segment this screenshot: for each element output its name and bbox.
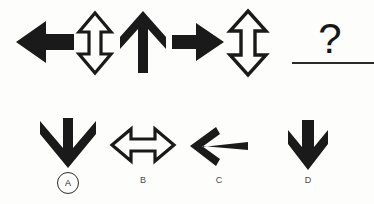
option-b-arrow-left-right-icon[interactable] (112, 128, 174, 162)
option-a-label[interactable]: A (57, 172, 79, 194)
sequence-item-4-arrow-right-icon (172, 22, 224, 62)
sequence-item-2-arrow-up-down-icon (78, 13, 112, 73)
sequence-item-3-arrow-up-icon (120, 11, 166, 73)
option-d-arrow-down-icon[interactable] (288, 120, 328, 170)
option-b-label[interactable]: B (130, 176, 156, 185)
sequence-item-1-arrow-left-icon (16, 20, 74, 64)
option-d-label[interactable]: D (295, 176, 321, 185)
option-c-arrow-left-icon[interactable] (190, 126, 248, 166)
sequence-item-5-arrow-up-down-icon (229, 11, 267, 75)
answer-blank-underline (292, 62, 374, 64)
option-c-label[interactable]: C (206, 176, 232, 185)
reasoning-puzzle-image: ? A B C D (0, 0, 374, 204)
option-a-arrow-down-icon[interactable] (40, 118, 96, 168)
sequence-item-6-question-mark: ? (316, 18, 344, 60)
